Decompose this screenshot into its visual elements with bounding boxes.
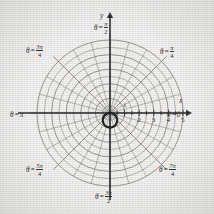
angle-label-theta-7pi-4: θ=7π4 [159, 163, 176, 177]
fraction-numerator: 3π [105, 190, 113, 197]
angle-fraction: π2 [104, 21, 108, 35]
y-axis-letter: y [100, 12, 103, 19]
radial-tick-label-2: 2 [137, 117, 141, 124]
fraction-denominator: 2 [104, 28, 108, 35]
angle-label-theta-3pi-2: θ=3π2 [95, 190, 112, 204]
fraction-numerator: π [170, 45, 174, 52]
fraction-numerator: 3π [36, 44, 44, 51]
angle-value: 0 [177, 111, 181, 119]
fraction-numerator: 5π [36, 163, 44, 170]
radial-tick-label-3: 3 [152, 117, 156, 124]
angle-fraction: 5π4 [36, 163, 44, 177]
fraction-denominator: 4 [170, 52, 174, 59]
angle-fraction: π4 [170, 45, 174, 59]
angle-fraction: 3π2 [105, 190, 113, 204]
angle-fraction: 7π4 [169, 163, 177, 177]
radial-tick-label-5: 5 [181, 117, 185, 124]
fraction-denominator: 2 [105, 197, 113, 204]
angle-value: π [20, 111, 24, 119]
angle-fraction: 3π4 [36, 44, 44, 58]
angle-label-theta-5pi-4: θ=5π4 [26, 163, 43, 177]
fraction-denominator: 4 [36, 170, 44, 177]
radial-tick-label-1: 1 [123, 102, 127, 109]
fraction-numerator: 7π [169, 163, 177, 170]
fraction-denominator: 4 [169, 170, 177, 177]
angle-label-theta-pi-4: θ=π4 [160, 45, 174, 59]
fraction-numerator: π [104, 21, 108, 28]
angle-label-theta-3pi-4: θ=3π4 [26, 44, 43, 58]
angle-label-theta-0: θ=0 [167, 112, 181, 119]
fraction-denominator: 4 [36, 51, 44, 58]
polar-figure: 12345 θ=0θ=π4θ=π2θ=3π4θ=πθ=5π4θ=3π2θ=7π4… [0, 0, 214, 214]
angle-label-theta-pi: θ=π [10, 112, 24, 119]
angle-label-theta-pi-2: θ=π2 [94, 21, 108, 35]
x-axis-letter: x [179, 97, 182, 104]
